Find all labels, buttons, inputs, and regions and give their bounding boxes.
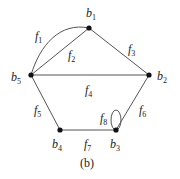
node-label-b4: b4 bbox=[52, 137, 62, 153]
edge-label-f6: f6 bbox=[139, 103, 146, 119]
edge-label-f5: f5 bbox=[34, 103, 41, 119]
node-b5 bbox=[28, 72, 33, 77]
edge-label-f8: f8 bbox=[100, 111, 107, 127]
edge-label-f7: f7 bbox=[84, 137, 91, 153]
graph-diagram: b1 b2 b3 b4 b5 f1 f2 f3 f4 f5 f6 f7 f8 (… bbox=[0, 0, 180, 179]
figure-caption: (b) bbox=[80, 156, 94, 170]
node-b2 bbox=[146, 72, 151, 77]
edge-label-f1: f1 bbox=[35, 29, 42, 45]
edge-label-f2: f2 bbox=[68, 48, 75, 64]
edge-f8-loop bbox=[111, 110, 121, 130]
edge-f3 bbox=[89, 28, 149, 75]
node-label-b1: b1 bbox=[86, 6, 96, 22]
node-b4 bbox=[57, 127, 62, 132]
node-b3 bbox=[113, 127, 118, 132]
node-label-b5: b5 bbox=[11, 70, 21, 86]
edge-label-f4: f4 bbox=[85, 83, 92, 99]
node-b1 bbox=[86, 25, 91, 30]
node-label-b3: b3 bbox=[110, 137, 120, 153]
node-label-b2: b2 bbox=[157, 69, 167, 85]
edge-label-f3: f3 bbox=[128, 42, 135, 58]
